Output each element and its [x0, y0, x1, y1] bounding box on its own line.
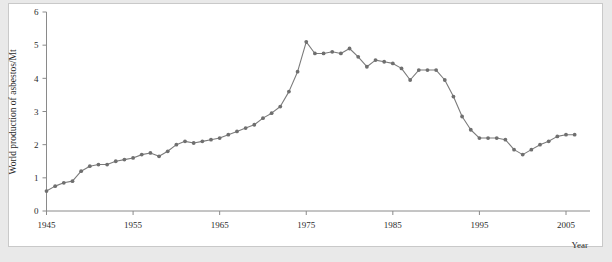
- data-point: [330, 50, 334, 54]
- x-tick-label-2005: 2005: [557, 220, 576, 230]
- y-tick-label-3: 3: [34, 107, 39, 117]
- data-point: [443, 78, 447, 82]
- data-point: [374, 58, 378, 62]
- y-tick-label-4: 4: [34, 74, 39, 84]
- data-point: [200, 139, 204, 143]
- y-axis-ticks: 0123456: [34, 7, 47, 216]
- x-tick-label-1975: 1975: [297, 220, 316, 230]
- data-point: [538, 143, 542, 147]
- data-point: [313, 52, 317, 56]
- data-point: [512, 148, 516, 152]
- y-tick-label-6: 6: [34, 7, 39, 17]
- data-point: [339, 52, 343, 56]
- data-point: [452, 95, 456, 99]
- data-point: [105, 163, 109, 167]
- data-point: [270, 111, 274, 115]
- data-point: [45, 189, 49, 193]
- data-point: [53, 184, 57, 188]
- data-point: [157, 154, 161, 158]
- data-point: [140, 153, 144, 157]
- data-point: [495, 136, 499, 140]
- data-point: [71, 179, 75, 183]
- data-point: [365, 65, 369, 69]
- data-point: [183, 139, 187, 143]
- data-point: [123, 158, 127, 162]
- data-point: [460, 115, 464, 119]
- data-point: [426, 68, 430, 72]
- x-tick-label-1985: 1985: [384, 220, 403, 230]
- data-point: [564, 133, 568, 137]
- data-point: [244, 126, 248, 130]
- asbestos-production-line-chart: 0123456 1945195519651975198519952005 Wor…: [0, 0, 612, 262]
- y-axis-title: World production of asbestos/Mt: [8, 49, 18, 174]
- data-point: [356, 55, 360, 59]
- data-point: [261, 116, 265, 120]
- data-point: [400, 66, 404, 70]
- data-point: [287, 90, 291, 94]
- data-point: [434, 68, 438, 72]
- data-point: [209, 138, 213, 142]
- data-point: [252, 123, 256, 127]
- data-point: [304, 40, 308, 44]
- data-point: [391, 62, 395, 66]
- data-point: [478, 136, 482, 140]
- y-tick-label-1: 1: [34, 173, 39, 183]
- data-point: [417, 68, 421, 72]
- data-point: [192, 141, 196, 145]
- data-point: [114, 159, 118, 163]
- data-point: [555, 134, 559, 138]
- data-point: [408, 78, 412, 82]
- data-point: [529, 148, 533, 152]
- data-point: [322, 52, 326, 56]
- data-point: [88, 164, 92, 168]
- data-point: [486, 136, 490, 140]
- data-point: [503, 138, 507, 142]
- data-point: [79, 169, 83, 173]
- x-tick-label-1955: 1955: [124, 220, 143, 230]
- data-point: [382, 60, 386, 64]
- data-point: [521, 153, 525, 157]
- data-point: [218, 136, 222, 140]
- y-tick-label-5: 5: [34, 40, 39, 50]
- data-point: [296, 70, 300, 74]
- data-markers-series-0: [45, 40, 577, 193]
- data-point: [573, 133, 577, 137]
- data-point: [149, 151, 153, 155]
- chart-page: 0123456 1945195519651975198519952005 Wor…: [0, 0, 612, 262]
- x-tick-label-1945: 1945: [38, 220, 57, 230]
- y-tick-label-0: 0: [34, 206, 39, 216]
- data-point: [226, 133, 230, 137]
- x-axis-title: Year: [571, 240, 588, 250]
- data-point: [469, 128, 473, 132]
- data-point: [97, 163, 101, 167]
- data-point: [62, 181, 66, 185]
- data-line-series-0: [47, 42, 575, 191]
- x-tick-label-1995: 1995: [470, 220, 489, 230]
- x-axis-ticks: 1945195519651975198519952005: [38, 211, 576, 230]
- data-point: [174, 143, 178, 147]
- data-point: [235, 130, 239, 134]
- data-point: [278, 105, 282, 109]
- y-tick-label-2: 2: [34, 140, 39, 150]
- x-tick-label-1965: 1965: [211, 220, 230, 230]
- data-point: [166, 149, 170, 153]
- data-point: [131, 156, 135, 160]
- data-point: [348, 47, 352, 51]
- data-point: [547, 139, 551, 143]
